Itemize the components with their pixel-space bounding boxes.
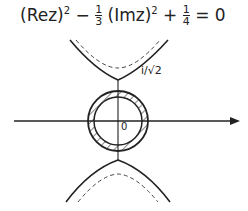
equation-equals: = 0: [195, 5, 225, 25]
equation-minus: −: [75, 5, 89, 25]
diagram: (Rez)2 − 13 (Imz)2 + 14 = 0 i/√2 0: [0, 0, 248, 211]
equation-exp2: 2: [151, 5, 157, 16]
equation-term-im: (Imz): [108, 5, 152, 25]
equation-term-re: (Rez): [20, 5, 64, 25]
hyperbola-diagram: [0, 0, 248, 211]
equation-title: (Rez)2 − 13 (Imz)2 + 14 = 0: [20, 4, 226, 27]
equation-plus: +: [163, 5, 177, 25]
annulus-hatching: [0, 0, 248, 211]
equation-frac1: 13: [95, 4, 102, 27]
equation-frac2: 14: [183, 4, 190, 27]
origin-label: 0: [121, 121, 127, 132]
vertex-label: i/√2: [141, 64, 162, 77]
equation-exp1: 2: [64, 5, 70, 16]
